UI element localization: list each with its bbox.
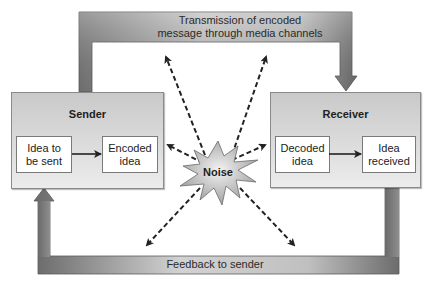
communication-diagram: Transmission of encoded message through … xyxy=(0,0,430,282)
receiver-box: Receiver Decoded idea Idea received xyxy=(270,92,421,188)
noise-arrow-down-right xyxy=(240,188,294,245)
sender-title: Sender xyxy=(12,108,163,120)
transmission-label: Transmission of encoded message through … xyxy=(140,14,340,40)
sender-box: Sender Idea to be sent Encoded idea xyxy=(11,92,164,189)
idea-to-be-sent-box: Idea to be sent xyxy=(16,136,72,173)
feedback-label: Feedback to sender xyxy=(150,258,280,271)
noise-arrow-up-right xyxy=(232,57,266,155)
encoded-idea-box: Encoded idea xyxy=(102,136,158,173)
transmission-label-line1: Transmission of encoded xyxy=(140,14,340,27)
noise-arrow-up-left xyxy=(166,57,205,155)
receiver-title: Receiver xyxy=(271,108,420,120)
decoded-idea-box: Decoded idea xyxy=(275,136,330,173)
transmission-label-line2: message through media channels xyxy=(140,27,340,40)
idea-received-box: Idea received xyxy=(362,136,416,173)
noise-arrow-down-left xyxy=(147,188,200,245)
noise-label: Noise xyxy=(195,166,241,178)
